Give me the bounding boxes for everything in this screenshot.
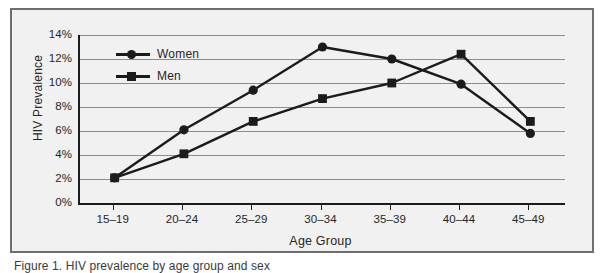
data-point-women <box>179 125 188 134</box>
data-point-men <box>180 149 189 158</box>
x-axis-tick-mark <box>182 205 183 210</box>
figure-root: HIV Prevalence 0%2%4%6%8%10%12%14% 15–19… <box>0 0 610 273</box>
y-axis-tick-labels: HIV Prevalence 0%2%4%6%8%10%12%14% <box>22 35 72 203</box>
data-point-men <box>387 79 396 88</box>
y-axis-tick-label: 4% <box>28 149 72 161</box>
x-axis-tick-label: 30–34 <box>304 213 336 225</box>
data-point-men <box>249 117 258 126</box>
figure-caption: Figure 1. HIV prevalence by age group an… <box>14 259 270 273</box>
x-axis-title: Age Group <box>78 234 563 248</box>
x-axis-tick-labels: 15–1920–2425–2930–3435–3940–4445–49 <box>78 213 563 229</box>
data-point-women <box>318 42 327 51</box>
x-axis-tick-label: 35–39 <box>374 213 406 225</box>
x-axis-tick-label: 45–49 <box>512 213 544 225</box>
y-axis-tick-label: 14% <box>28 29 72 41</box>
y-axis-tick-label: 0% <box>28 197 72 209</box>
x-axis-tick-mark <box>459 205 460 210</box>
x-axis-tick-mark <box>251 205 252 210</box>
x-axis-tick-mark <box>390 205 391 210</box>
x-axis-tick-marks <box>78 205 563 211</box>
data-point-women <box>387 54 396 63</box>
data-point-women <box>249 86 258 95</box>
x-axis-tick-label: 25–29 <box>235 213 267 225</box>
x-axis-tick-mark <box>113 205 114 210</box>
legend-label: Men <box>157 69 181 83</box>
data-point-women <box>526 129 535 138</box>
x-axis-tick-mark <box>528 205 529 210</box>
legend-label: Women <box>157 47 199 61</box>
legend-marker-square-icon <box>116 69 150 83</box>
legend-marker-circle-icon <box>116 47 150 61</box>
legend-item-men: Men <box>116 65 236 87</box>
x-axis-tick-mark <box>321 205 322 210</box>
chart-legend: WomenMen <box>116 43 236 87</box>
legend-item-women: Women <box>116 43 236 65</box>
y-axis-tick-label: 6% <box>28 125 72 137</box>
data-point-men <box>318 94 327 103</box>
x-axis-tick-label: 15–19 <box>96 213 128 225</box>
data-point-men <box>457 50 466 59</box>
y-axis-tick-label: 10% <box>28 77 72 89</box>
chart-panel: HIV Prevalence 0%2%4%6%8%10%12%14% 15–19… <box>10 8 594 253</box>
y-axis-tick-label: 8% <box>28 101 72 113</box>
data-point-women <box>456 80 465 89</box>
data-point-men <box>110 173 119 182</box>
y-axis-tick-label: 12% <box>28 53 72 65</box>
data-point-men <box>526 117 535 126</box>
x-axis-tick-label: 20–24 <box>166 213 198 225</box>
x-axis-tick-label: 40–44 <box>443 213 475 225</box>
y-axis-tick-label: 2% <box>28 173 72 185</box>
